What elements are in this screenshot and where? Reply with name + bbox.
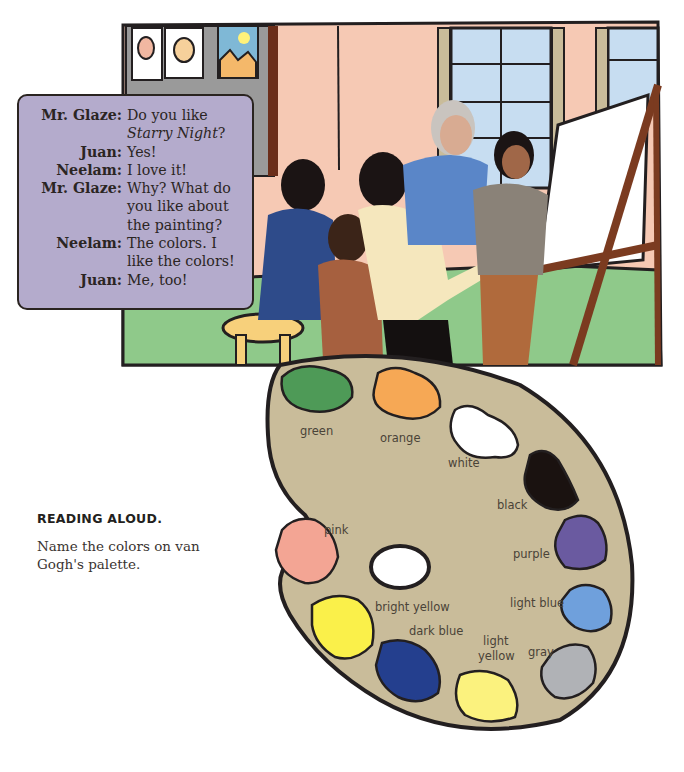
dialogue-line: Mr. Glaze: Why? What do you like about t… [25,179,244,234]
color-label-orange: orange [380,432,420,445]
color-label-pink: pink [324,524,348,537]
speaker: Juan: [25,271,127,289]
activity-title: READING ALOUD. [37,511,162,526]
dialogue-line: Neelam: The colors. I like the colors! [25,234,244,271]
palette-board [260,345,640,735]
speech: Yes! [127,143,244,161]
paint-palette: green orange white black purple light bl… [260,345,640,735]
dialogue-line: Mr. Glaze: Do you likeStarry Night? [25,106,244,143]
speaker: Juan: [25,143,127,161]
speaker: Mr. Glaze: [25,179,127,234]
dialogue-line: Juan: Me, too! [25,271,244,289]
dialogue-box: Mr. Glaze: Do you likeStarry Night? Juan… [17,94,254,310]
color-label-green: green [300,425,333,438]
speech: Why? What do you like about the painting… [127,179,244,234]
color-label-light-yellow-2: yellow [478,650,515,663]
color-label-gray: gray [528,646,554,659]
dialogue-line: Neelam: I love it! [25,161,244,179]
color-label-white: white [448,457,479,470]
color-label-light-yellow-1: light [483,635,509,648]
speech: Do you likeStarry Night? [127,106,244,143]
color-label-bright-yellow: bright yellow [375,601,450,614]
color-label-black: black [497,499,528,512]
speaker: Neelam: [25,234,127,271]
speaker: Mr. Glaze: [25,106,127,143]
speaker: Neelam: [25,161,127,179]
color-label-purple: purple [513,548,550,561]
color-label-light-blue: light blue [510,597,564,610]
speech: Me, too! [127,271,244,289]
speech: I love it! [127,161,244,179]
speech: The colors. I like the colors! [127,234,244,271]
color-label-dark-blue: dark blue [409,625,463,638]
activity-instruction: Name the colors on van Gogh's palette. [37,537,207,573]
dialogue-line: Juan: Yes! [25,143,244,161]
painting-title: Starry Night [127,125,218,141]
